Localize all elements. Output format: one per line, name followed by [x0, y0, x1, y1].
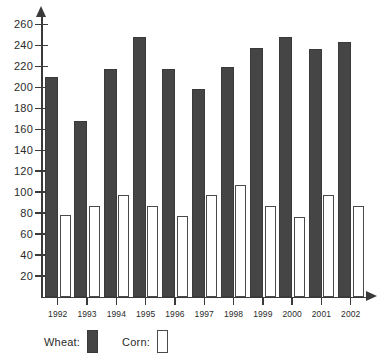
bar-wheat-1994 — [104, 69, 117, 297]
y-axis-tick-label: 120 — [0, 166, 33, 177]
x-axis-tick — [233, 298, 234, 305]
x-axis-tick-label-2002: 2002 — [331, 309, 371, 319]
bar-chart: 20406080100120140160180200220240260 1992… — [0, 0, 390, 361]
bar-corn-2000 — [294, 217, 305, 297]
bar-wheat-1997 — [192, 89, 205, 297]
bar-wheat-1992 — [45, 77, 58, 297]
legend-swatch-corn — [157, 330, 168, 353]
bar-corn-2002 — [353, 206, 364, 297]
y-axis-tick-label: 180 — [0, 103, 33, 114]
x-axis-tick — [86, 298, 87, 305]
bar-corn-1994 — [118, 195, 129, 297]
y-axis-tick-label: 160 — [0, 124, 33, 135]
x-axis-tick — [350, 298, 351, 305]
y-axis-tick-label: 80 — [0, 208, 33, 219]
bar-wheat-2000 — [279, 37, 292, 297]
y-axis-tick — [35, 24, 48, 26]
chart-legend: Wheat: Corn: — [44, 330, 168, 353]
bar-corn-2001 — [323, 195, 334, 297]
y-axis-tick-label: 220 — [0, 61, 33, 72]
x-axis-tick — [57, 298, 58, 305]
x-axis-tick — [204, 298, 205, 305]
bar-wheat-1995 — [133, 37, 146, 297]
y-axis-tick — [35, 66, 48, 68]
y-axis-tick-label: 260 — [0, 19, 33, 30]
plot-area: 20406080100120140160180200220240260 1992… — [0, 0, 390, 310]
y-axis-tick — [35, 45, 48, 47]
bar-corn-1998 — [235, 185, 246, 297]
bar-wheat-1993 — [74, 121, 87, 297]
bar-corn-1999 — [265, 206, 276, 297]
bar-corn-1995 — [147, 206, 158, 297]
bar-corn-1996 — [177, 216, 188, 297]
y-axis-tick-label: 140 — [0, 145, 33, 156]
bar-wheat-1996 — [162, 69, 175, 297]
legend-label-wheat: Wheat: — [44, 336, 80, 348]
x-axis-tick — [321, 298, 322, 305]
legend-label-corn: Corn: — [122, 336, 150, 348]
x-axis-arrow-icon — [366, 291, 377, 301]
y-axis-tick-label: 60 — [0, 229, 33, 240]
x-axis-tick — [145, 298, 146, 305]
bar-wheat-2001 — [309, 49, 322, 297]
bar-corn-1997 — [206, 195, 217, 297]
y-axis-tick-label: 200 — [0, 82, 33, 93]
x-axis-tick — [291, 298, 292, 305]
bar-corn-1992 — [60, 215, 71, 297]
y-axis-tick-label: 240 — [0, 40, 33, 51]
legend-swatch-wheat — [87, 330, 98, 353]
bar-corn-1993 — [89, 206, 100, 297]
y-axis-tick-label: 40 — [0, 250, 33, 261]
y-axis-tick-label: 100 — [0, 187, 33, 198]
x-axis-tick — [262, 298, 263, 305]
y-axis-tick-label: 20 — [0, 271, 33, 282]
bar-wheat-2002 — [338, 42, 351, 297]
bar-wheat-1998 — [221, 67, 234, 297]
x-axis-tick — [174, 298, 175, 305]
bar-wheat-1999 — [250, 48, 263, 297]
x-axis-tick — [116, 298, 117, 305]
